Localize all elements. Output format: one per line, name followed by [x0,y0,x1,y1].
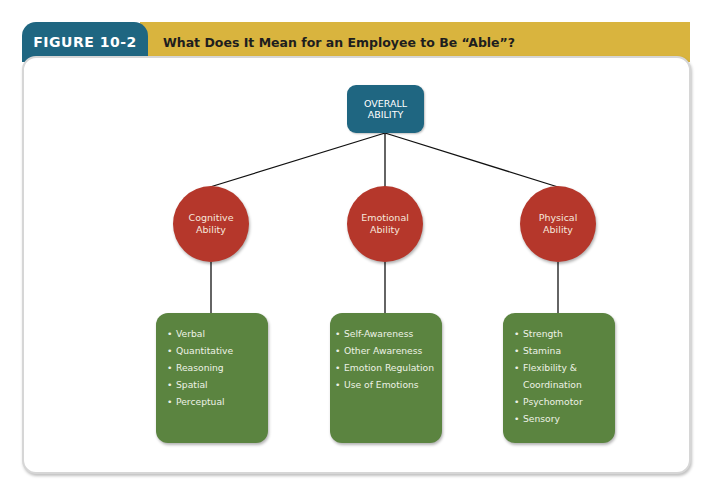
physical-ability-list: •Strength •Stamina •Flexibility & Coordi… [503,313,615,443]
physical-ability-line1: Physical [539,212,578,224]
list-item: •Sensory [523,410,615,427]
physical-ability-line2: Ability [543,224,573,236]
list-item: •Quantitative [176,342,268,359]
list-item: •Stamina [523,342,615,359]
cognitive-ability-node: Cognitive Ability [173,186,249,262]
list-item: •Other Awareness [344,342,442,359]
physical-ability-node: Physical Ability [520,186,596,262]
list-item: •Use of Emotions [344,376,442,393]
list-item: •Emotion Regulation [344,359,442,376]
overall-ability-line2: ABILITY [347,109,424,120]
cognitive-ability-list: •Verbal •Quantitative •Reasoning •Spatia… [156,313,268,443]
emotional-ability-list: •Self-Awareness •Other Awareness •Emotio… [330,313,442,443]
list-item: •Self-Awareness [344,325,442,342]
list-item: •Reasoning [176,359,268,376]
list-item-continuation: Coordination [523,376,615,393]
emotional-ability-node: Emotional Ability [347,186,423,262]
list-item: •Flexibility & [523,359,615,376]
list-item: •Strength [523,325,615,342]
list-item: •Spatial [176,376,268,393]
emotional-ability-line2: Ability [370,224,400,236]
cognitive-ability-line1: Cognitive [189,212,234,224]
emotional-ability-line1: Emotional [361,212,409,224]
overall-ability-node: OVERALL ABILITY [347,85,424,133]
list-item: •Psychomotor [523,393,615,410]
overall-ability-line1: OVERALL [347,98,424,109]
cognitive-ability-line2: Ability [196,224,226,236]
list-item: •Verbal [176,325,268,342]
list-item: •Perceptual [176,393,268,410]
